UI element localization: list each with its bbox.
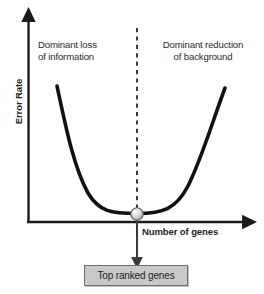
- right-region-annotation: Dominant reduction of background: [146, 39, 260, 64]
- left-region-annotation-line-1: Dominant loss: [38, 39, 130, 51]
- figure-canvas: Error Rate Number of genes Dominant loss…: [0, 0, 264, 294]
- right-region-annotation-line-2: of background: [146, 51, 260, 63]
- right-region-annotation-line-1: Dominant reduction: [146, 39, 260, 51]
- left-region-annotation-line-2: of information: [38, 51, 130, 63]
- y-axis-label: Error Rate: [13, 67, 24, 137]
- optimum-point-marker[interactable]: [131, 208, 143, 220]
- x-axis-label: Number of genes: [142, 226, 218, 237]
- left-region-annotation: Dominant loss of information: [38, 39, 130, 64]
- top-ranked-genes-callout-label: Top ranked genes: [97, 270, 174, 281]
- top-ranked-genes-callout[interactable]: Top ranked genes: [84, 265, 188, 286]
- error-rate-curve: [57, 86, 225, 214]
